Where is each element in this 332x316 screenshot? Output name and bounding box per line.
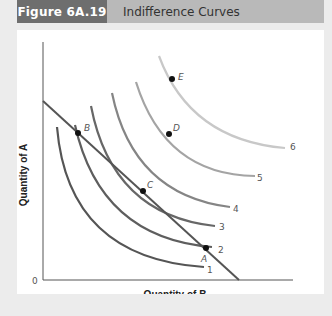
curve-label-6: 6 xyxy=(290,142,296,152)
point-d-label: D xyxy=(173,123,180,133)
point-d xyxy=(166,131,172,137)
point-e-label: E xyxy=(178,72,184,82)
indifference-chart: B C A D E 1 2 3 4 5 6 0 Quantity of B Qu… xyxy=(17,30,324,294)
x-axis-title: Quantity of B xyxy=(144,289,207,294)
origin-label: 0 xyxy=(32,276,38,286)
indifference-curve-1 xyxy=(57,127,204,267)
point-c-label: C xyxy=(147,180,154,190)
point-a xyxy=(203,245,209,251)
point-a-label: A xyxy=(200,254,207,264)
indifference-curve-4 xyxy=(112,93,230,207)
curve-label-3: 3 xyxy=(219,222,225,232)
indifference-curve-3 xyxy=(91,106,215,226)
point-c xyxy=(140,188,146,194)
indifference-curve-2 xyxy=(75,125,212,247)
curve-label-2: 2 xyxy=(218,245,224,255)
point-b-label: B xyxy=(84,123,90,133)
indifference-curve-6 xyxy=(159,56,285,148)
figure-title: Indifference Curves xyxy=(107,5,240,19)
point-e xyxy=(169,76,175,82)
figure-header: Figure 6A.19 Indifference Curves xyxy=(17,0,324,23)
curve-label-1: 1 xyxy=(207,265,213,275)
curve-label-5: 5 xyxy=(257,173,263,183)
point-b xyxy=(75,130,81,136)
figure-number: Figure 6A.19 xyxy=(17,0,107,23)
curve-label-4: 4 xyxy=(233,204,239,214)
y-axis-title: Quantity of A xyxy=(18,144,29,206)
indifference-curve-5 xyxy=(136,82,255,176)
chart-panel: B C A D E 1 2 3 4 5 6 0 Quantity of B Qu… xyxy=(17,30,324,294)
